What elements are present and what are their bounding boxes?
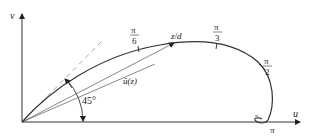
angle-arc xyxy=(66,79,83,121)
v-axis-label: v xyxy=(10,10,15,21)
end-label-pi: π xyxy=(270,125,275,135)
u-axis-label: u xyxy=(293,108,298,119)
reference-line xyxy=(22,64,155,122)
point-label: z/d xyxy=(170,31,182,41)
tick-pi-6 xyxy=(138,46,139,52)
vector-label: ū(z) xyxy=(123,76,137,86)
tick-label-pi-2-num: π xyxy=(264,56,269,66)
vector-u-bar xyxy=(22,43,174,122)
tick-label-pi-3-num: π xyxy=(214,22,219,32)
angle-label: 45° xyxy=(82,95,96,106)
tick-label-pi-6-num: π xyxy=(131,25,136,35)
tick-label-pi-3-den: 3 xyxy=(215,33,220,43)
spiral-curve xyxy=(22,42,272,123)
spiral-diagram: v u 45° ū(z) z/d π 6 π 3 π 2 π ≈ xyxy=(0,0,312,139)
tick-label-pi-2-den: 2 xyxy=(265,67,270,77)
tick-label-pi-6-den: 6 xyxy=(132,36,137,46)
